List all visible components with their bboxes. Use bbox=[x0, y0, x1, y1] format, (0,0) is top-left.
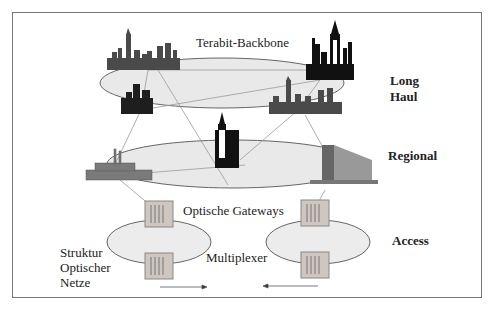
regional-label: Regional bbox=[388, 148, 437, 164]
city-skyline-icon bbox=[107, 28, 180, 70]
gateway-rack-right-icon bbox=[301, 200, 329, 226]
multiplexer-label: Multiplexer bbox=[206, 250, 267, 266]
backbone-label: Terabit-Backbone bbox=[196, 35, 289, 51]
multiplexer-rack-right-icon bbox=[301, 252, 329, 278]
long-haul-line1: Long bbox=[390, 73, 419, 89]
caption-line3: Netze bbox=[60, 275, 111, 290]
caption-line1: Struktur bbox=[60, 245, 111, 260]
access-label: Access bbox=[392, 233, 429, 249]
long-haul-label: Long Haul bbox=[390, 73, 419, 105]
statue-of-liberty-icon bbox=[306, 20, 354, 80]
multiplexer-rack-left-icon bbox=[145, 253, 173, 279]
arrow-left-icon bbox=[263, 284, 318, 288]
long-haul-line2: Haul bbox=[390, 89, 419, 105]
arrow-right-icon bbox=[160, 285, 207, 289]
gateway-rack-left-icon bbox=[145, 201, 173, 227]
caption-line2: Optischer bbox=[60, 260, 111, 275]
gateways-label: Optische Gateways bbox=[183, 203, 284, 219]
tower-icon bbox=[215, 112, 239, 168]
caption: Struktur Optischer Netze bbox=[60, 245, 111, 290]
